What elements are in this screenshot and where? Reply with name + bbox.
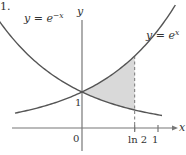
tick-label-one: 1 xyxy=(152,134,158,145)
tick-label-ln2: ln 2 xyxy=(128,134,147,145)
label-e-x: y = ex xyxy=(145,28,180,42)
y-axis-label: y xyxy=(76,5,84,18)
origin-label: 0 xyxy=(73,133,79,144)
x-axis-arrow-icon xyxy=(172,126,178,131)
label-e-neg-x: y = e−x xyxy=(23,11,64,25)
graph-figure: 1. y = e−x y = ex y x 1 0 ln 2 1 xyxy=(0,0,186,155)
x-axis-label: x xyxy=(179,121,186,134)
problem-number: 1. xyxy=(0,0,11,13)
y-intercept-label: 1 xyxy=(75,97,81,108)
